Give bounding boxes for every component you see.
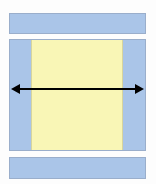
bottom-blue-bar [9, 157, 146, 179]
diagram-canvas [0, 0, 156, 184]
yellow-inset-region [31, 40, 123, 150]
top-blue-bar [9, 13, 146, 34]
